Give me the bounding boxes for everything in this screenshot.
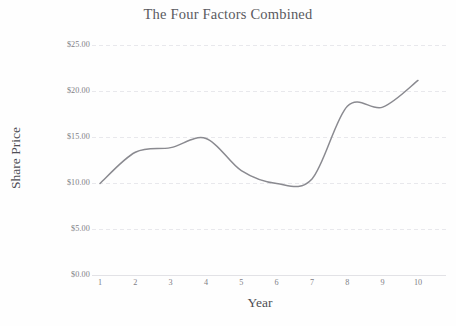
x-tick-label: 8 bbox=[335, 278, 359, 287]
gridlines bbox=[92, 46, 446, 276]
data-series-line bbox=[100, 80, 418, 186]
x-tick-label: 4 bbox=[194, 278, 218, 287]
x-tick-label: 3 bbox=[159, 278, 183, 287]
x-tick-label: 9 bbox=[371, 278, 395, 287]
x-tick-label: 6 bbox=[265, 278, 289, 287]
series-line-share-price bbox=[100, 80, 418, 186]
x-tick-label: 5 bbox=[229, 278, 253, 287]
x-tick-label: 1 bbox=[88, 278, 112, 287]
x-tick-label: 2 bbox=[123, 278, 147, 287]
x-tick-label: 10 bbox=[406, 278, 430, 287]
x-tick-label: 7 bbox=[300, 278, 324, 287]
x-axis-title: Year bbox=[80, 295, 440, 311]
chart-container: The Four Factors Combined Share Price $2… bbox=[0, 0, 456, 326]
